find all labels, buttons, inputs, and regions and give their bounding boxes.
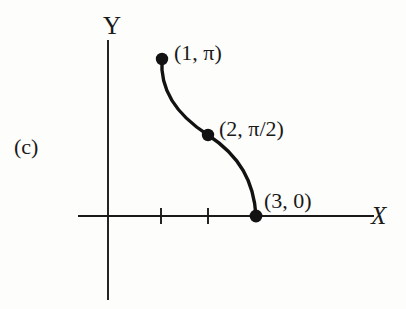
x-axis-label: X	[371, 203, 386, 228]
y-axis-label: Y	[103, 13, 121, 38]
part-label: (c)	[14, 136, 38, 158]
data-point-3-zero	[250, 210, 263, 223]
point-label-1: (1, π)	[174, 42, 222, 64]
data-point-2-pi-over-2	[202, 129, 214, 141]
point-label-3: (3, 0)	[264, 190, 312, 212]
polar-curve-figure: (c) (1, π) (2, π/2) (3, 0) Y X	[0, 0, 406, 309]
point-label-2: (2, π/2)	[219, 118, 284, 140]
data-point-1-pi	[156, 53, 168, 65]
